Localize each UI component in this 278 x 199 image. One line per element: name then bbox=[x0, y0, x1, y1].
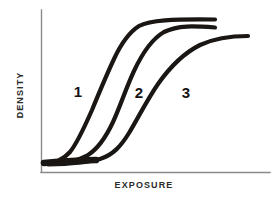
characteristic-curve-figure: 1 2 3 DENSITY EXPOSURE bbox=[0, 0, 278, 199]
x-axis-title: EXPOSURE bbox=[115, 180, 174, 190]
curve-label-2: 2 bbox=[135, 84, 143, 101]
chart-canvas: 1 2 3 DENSITY EXPOSURE bbox=[0, 0, 278, 199]
curve-label-1: 1 bbox=[74, 83, 82, 100]
curve-3-path bbox=[48, 36, 248, 165]
curve-label-3: 3 bbox=[182, 84, 190, 101]
y-axis-title: DENSITY bbox=[15, 72, 25, 119]
